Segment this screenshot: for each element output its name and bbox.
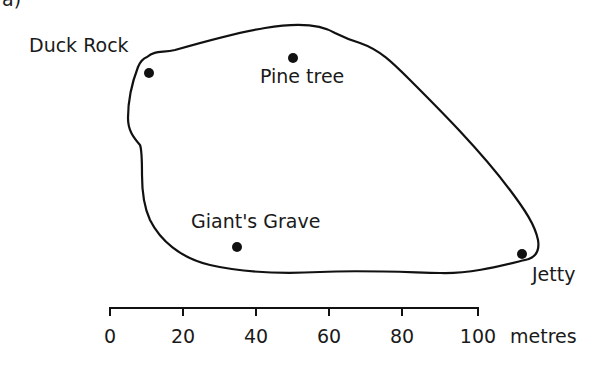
- scale-tick-60: 60: [317, 325, 341, 347]
- scale-bar: [110, 307, 478, 316]
- label-jetty: Jetty: [532, 263, 575, 285]
- scale-tick-80: 80: [390, 325, 414, 347]
- island-outline: [128, 25, 538, 273]
- scale-tick-100: 100: [460, 325, 496, 347]
- scale-unit: metres: [510, 325, 577, 347]
- pine-tree-marker: [288, 53, 298, 63]
- giants-grave-marker: [232, 242, 242, 252]
- scale-tick-40: 40: [244, 325, 268, 347]
- label-duck-rock: Duck Rock: [29, 34, 129, 56]
- duck-rock-marker: [144, 68, 154, 78]
- jetty-marker: [517, 249, 527, 259]
- scale-tick-0: 0: [104, 325, 116, 347]
- label-pine-tree: Pine tree: [260, 65, 344, 87]
- scale-tick-20: 20: [171, 325, 195, 347]
- label-giants-grave: Giant's Grave: [191, 210, 320, 232]
